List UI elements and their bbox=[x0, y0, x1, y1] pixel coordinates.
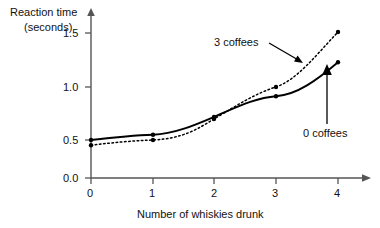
y-tick-label-1-0: 1.0 bbox=[63, 81, 78, 94]
x-axis-title: Number of whiskies drunk bbox=[137, 208, 264, 221]
annotation-arrow-0-coffees bbox=[322, 64, 332, 124]
annotation-label-0-coffees: 0 coffees bbox=[303, 127, 347, 140]
x-tick-label-4: 4 bbox=[334, 187, 340, 200]
annotation-label-3-coffees: 3 coffees bbox=[214, 36, 258, 49]
chart-plot-area bbox=[0, 0, 380, 228]
x-tick-label-1: 1 bbox=[149, 187, 155, 200]
y-tick-label-1-5: 1.5 bbox=[63, 27, 78, 40]
axis-lines bbox=[87, 8, 371, 182]
x-tick-label-2: 2 bbox=[211, 187, 217, 200]
chart-figure: Reaction time (seconds) Number of whiski… bbox=[0, 0, 380, 228]
annotation-arrow-3-coffees bbox=[269, 43, 303, 63]
x-tick-label-3: 3 bbox=[272, 187, 278, 200]
y-axis-ticks bbox=[85, 33, 91, 178]
y-tick-label-0-0: 0.0 bbox=[63, 172, 78, 185]
x-tick-label-0: 0 bbox=[87, 187, 93, 200]
x-axis-ticks bbox=[91, 178, 338, 184]
y-axis-title-line1: Reaction time bbox=[10, 6, 77, 19]
y-tick-label-0-5: 0.5 bbox=[63, 134, 78, 147]
